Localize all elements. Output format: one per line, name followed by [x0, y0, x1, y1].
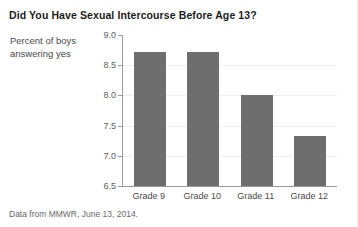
y-tick-label: 9.0 [86, 30, 116, 40]
y-tick-label: 8.5 [86, 60, 116, 70]
bar [134, 52, 166, 186]
x-tick-label: Grade 12 [290, 191, 328, 201]
plot-area [122, 35, 337, 187]
bar-slot [123, 35, 177, 186]
x-tick-label: Grade 10 [183, 191, 221, 201]
x-tick-label: Grade 11 [237, 191, 274, 201]
y-tick-mark [118, 35, 122, 36]
bar-slot [177, 35, 231, 186]
bar-slot [230, 35, 284, 186]
bar [294, 136, 326, 186]
plot-area-wrapper [122, 35, 336, 186]
y-tick-label: 8.0 [86, 90, 116, 100]
y-tick-mark [118, 186, 122, 187]
chart-title: Did You Have Sexual Intercourse Before A… [9, 9, 257, 21]
source-note: Data from MMWR, June 13, 2014. [9, 209, 138, 219]
y-tick-mark [118, 126, 122, 127]
bar [241, 95, 273, 186]
chart-figure: Did You Have Sexual Intercourse Before A… [0, 0, 358, 227]
bar-slot [284, 35, 338, 186]
y-axis-label-line-2: answering yes [10, 47, 102, 60]
y-tick-mark [118, 156, 122, 157]
bar [187, 52, 219, 186]
y-tick-label: 7.5 [86, 121, 116, 131]
y-tick-mark [118, 95, 122, 96]
bars-group [123, 35, 337, 186]
y-tick-label: 6.5 [86, 181, 116, 191]
y-tick-label: 7.0 [86, 151, 116, 161]
x-tick-label: Grade 9 [132, 191, 165, 201]
y-tick-mark [118, 65, 122, 66]
